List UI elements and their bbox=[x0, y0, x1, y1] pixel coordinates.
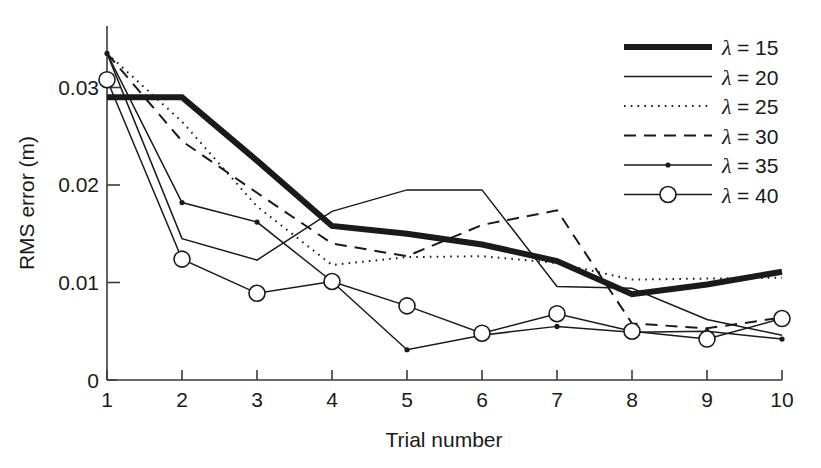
series-lambda-35 bbox=[104, 51, 784, 353]
series-layer bbox=[99, 51, 790, 353]
legend-marker-dot bbox=[665, 162, 670, 167]
legend-lambda-symbol: λ bbox=[721, 124, 732, 149]
legend-label-text: = 20 bbox=[737, 66, 778, 89]
y-tick-label-2: 0.02 bbox=[58, 173, 99, 196]
x-tick-label-9: 9 bbox=[701, 388, 713, 411]
data-point-circle bbox=[399, 298, 415, 314]
legend-lambda-symbol: λ bbox=[721, 94, 732, 119]
data-point-circle bbox=[699, 331, 715, 347]
legend-item-lambda-25[interactable]: λ = 25 bbox=[624, 94, 778, 119]
series-line bbox=[107, 97, 782, 294]
data-point-dot bbox=[404, 347, 409, 352]
data-point-dot bbox=[179, 200, 184, 205]
axes-group bbox=[107, 26, 782, 380]
data-point-circle bbox=[774, 311, 790, 327]
data-point-circle bbox=[624, 323, 640, 339]
x-tick-label-1: 1 bbox=[101, 388, 113, 411]
data-point-circle bbox=[474, 325, 490, 341]
data-point-circle bbox=[549, 306, 565, 322]
data-point-circle bbox=[99, 72, 115, 88]
legend-label-text: = 30 bbox=[737, 125, 778, 148]
legend-marker-circle bbox=[660, 187, 676, 203]
legend-lambda-symbol: λ bbox=[721, 183, 732, 208]
chart-figure: 0 0.01 0.02 0.03 1 2 3 4 5 6 7 8 9 bbox=[0, 0, 821, 468]
legend-item-lambda-35[interactable]: λ = 35 bbox=[624, 153, 778, 178]
x-tick-label-8: 8 bbox=[626, 388, 638, 411]
x-tick-label-2: 2 bbox=[176, 388, 188, 411]
y-axis-ticks: 0 0.01 0.02 0.03 bbox=[58, 76, 120, 392]
data-point-circle bbox=[324, 274, 340, 290]
y-tick-label-3: 0.03 bbox=[58, 76, 99, 99]
series-lambda-15 bbox=[107, 97, 782, 294]
legend-item-lambda-30[interactable]: λ = 30 bbox=[624, 124, 778, 149]
series-line bbox=[107, 53, 782, 349]
data-point-dot bbox=[779, 336, 784, 341]
y-tick-label-1: 0.01 bbox=[58, 271, 99, 294]
legend-item-lambda-40[interactable]: λ = 40 bbox=[624, 183, 778, 208]
data-point-dot bbox=[554, 324, 559, 329]
x-tick-label-7: 7 bbox=[551, 388, 563, 411]
legend-label-text: = 15 bbox=[737, 36, 778, 59]
legend-label-text: = 40 bbox=[737, 184, 778, 207]
legend-lambda-symbol: λ bbox=[721, 65, 732, 90]
x-axis-title: Trial number bbox=[385, 428, 502, 451]
data-point-dot bbox=[104, 51, 109, 56]
data-point-circle bbox=[249, 285, 265, 301]
x-tick-label-3: 3 bbox=[251, 388, 263, 411]
x-tick-label-5: 5 bbox=[401, 388, 413, 411]
legend-label-text: = 35 bbox=[737, 154, 778, 177]
line-chart-plot: 0 0.01 0.02 0.03 1 2 3 4 5 6 7 8 9 bbox=[0, 0, 821, 468]
legend-item-lambda-20[interactable]: λ = 20 bbox=[624, 65, 778, 90]
y-tick-label-0: 0 bbox=[87, 369, 99, 392]
x-axis-ticks: 1 2 3 4 5 6 7 8 9 10 bbox=[101, 370, 794, 411]
data-point-circle bbox=[174, 251, 190, 267]
legend-lambda-symbol: λ bbox=[721, 35, 732, 60]
y-axis-title: RMS error (m) bbox=[15, 136, 38, 270]
legend-label-text: = 25 bbox=[737, 95, 778, 118]
legend-item-lambda-15[interactable]: λ = 15 bbox=[624, 35, 778, 60]
data-point-dot bbox=[254, 219, 259, 224]
x-tick-label-4: 4 bbox=[326, 388, 338, 411]
x-tick-label-6: 6 bbox=[476, 388, 488, 411]
legend-lambda-symbol: λ bbox=[721, 153, 732, 178]
x-tick-label-10: 10 bbox=[770, 388, 793, 411]
chart-legend: λ = 15λ = 20λ = 25λ = 30λ = 35λ = 40 bbox=[624, 35, 778, 208]
